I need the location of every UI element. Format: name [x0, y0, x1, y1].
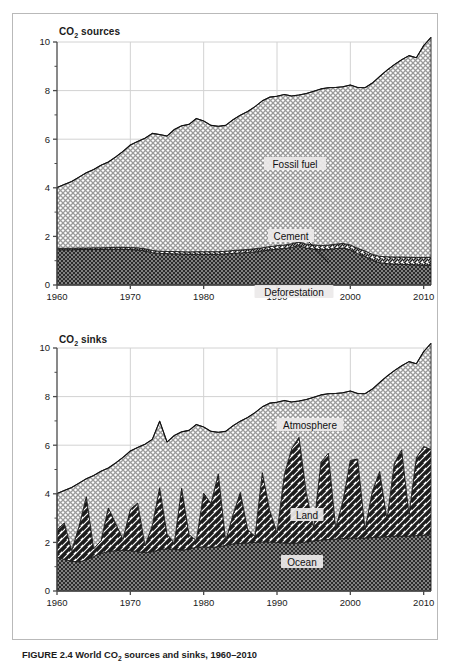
chart-co2-sinks: 0246810196019701980199020002010Atmospher… [13, 330, 439, 638]
y-tick-label: 8 [45, 391, 50, 402]
x-tick-label: 2000 [340, 291, 361, 302]
x-tick-label: 1960 [46, 597, 67, 608]
x-tick-label: 2000 [340, 597, 361, 608]
y-tick-label: 0 [45, 585, 50, 596]
y-tick-label: 4 [45, 182, 50, 193]
series-label-ocean: Ocean [287, 557, 316, 568]
figure-frame: CO2 sources 0246810196019701980199020002… [12, 13, 438, 640]
series-label-deforestation: Deforestation [264, 287, 323, 298]
figure-caption: FIGURE 2.4 World CO2 sources and sinks, … [22, 650, 442, 662]
caption-prefix: FIGURE 2.4 [22, 650, 73, 660]
y-tick-label: 0 [45, 279, 50, 290]
series-label-atmosphere: Atmosphere [283, 420, 337, 431]
x-tick-label: 1970 [120, 291, 141, 302]
y-tick-label: 6 [45, 134, 50, 145]
caption-text-b: sources and sinks, 1960–2010 [122, 650, 257, 660]
y-tick-label: 2 [45, 231, 50, 242]
x-tick-label: 2010 [413, 291, 434, 302]
x-tick-label: 1970 [120, 597, 141, 608]
series-label-fossil-fuel: Fossil fuel [272, 159, 317, 170]
x-tick-label: 2010 [413, 597, 434, 608]
x-tick-label: 1980 [193, 291, 214, 302]
chart-co2-sources: 0246810196019701980199020002010Fossil fu… [13, 18, 439, 330]
series-label-land: Land [296, 510, 318, 521]
caption-text-a: World CO [73, 650, 118, 660]
y-tick-label: 10 [39, 342, 50, 353]
y-tick-label: 8 [45, 85, 50, 96]
y-tick-label: 10 [39, 36, 50, 47]
x-tick-label: 1960 [46, 291, 67, 302]
series-label-cement: Cement [273, 231, 308, 242]
panel-co2-sinks: CO2 sinks 024681019601970198019902000201… [13, 330, 439, 638]
y-tick-label: 2 [45, 537, 50, 548]
panel-co2-sources: CO2 sources 0246810196019701980199020002… [13, 18, 439, 330]
y-tick-label: 6 [45, 440, 50, 451]
y-tick-label: 4 [45, 488, 50, 499]
x-tick-label: 1990 [266, 597, 287, 608]
x-tick-label: 1980 [193, 597, 214, 608]
